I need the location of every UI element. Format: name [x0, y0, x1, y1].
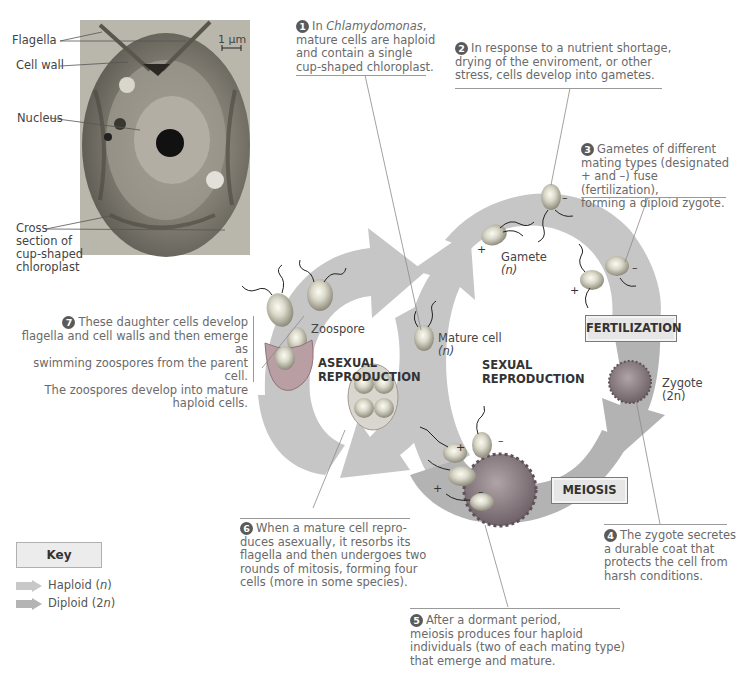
gamete-label: Gamete (n)	[501, 251, 547, 277]
minus-sign: –	[562, 191, 568, 204]
step-6-badge: 6	[240, 522, 253, 535]
key-item-diploid: Diploid (2n)	[16, 596, 115, 610]
asexual-reproduction-title: ASEXUAL REPRODUCTION	[318, 356, 421, 384]
step-5-caption: 5After a dormant period, meiosis produce…	[410, 614, 625, 668]
zoospore-label: Zoospore	[311, 323, 365, 336]
scale-bar-label: 1 µm	[218, 33, 246, 46]
step-7-caption: 7These daughter cells develop flagella a…	[18, 316, 248, 411]
cell-wall-label: Cell wall	[16, 59, 64, 72]
chloroplast-label-4: chloroplast	[16, 261, 79, 274]
step-7-badge: 7	[62, 316, 75, 329]
plus-sign: +	[477, 243, 486, 256]
electron-micrograph	[80, 20, 250, 257]
step-2-caption: 2In response to a nutrient shortage, dry…	[455, 42, 671, 83]
step-2-rule	[455, 88, 662, 89]
nucleus-label: Nucleus	[17, 112, 63, 125]
step-7-rule	[253, 316, 254, 382]
minus-sign: –	[498, 434, 504, 447]
haploid-arrow-icon	[16, 580, 42, 592]
diploid-arrow-icon	[16, 598, 42, 610]
step-3-badge: 3	[581, 143, 594, 156]
plus-sign: +	[456, 441, 465, 454]
step-6-rule	[240, 518, 410, 519]
key-title: Key	[16, 542, 102, 568]
step-5-badge: 5	[410, 614, 423, 627]
key-item-haploid: Haploid (n)	[16, 578, 112, 592]
step-1-rule	[296, 75, 426, 76]
step-5-rule	[410, 608, 620, 609]
step-4-badge: 4	[604, 529, 617, 542]
step-4-caption: 4The zygote secretes a durable coat that…	[604, 529, 736, 583]
step-1-badge: 1	[296, 20, 309, 33]
step-6-caption: 6When a mature cell repro- duces asexual…	[240, 522, 426, 590]
step-2-badge: 2	[455, 42, 468, 55]
plus-sign: +	[570, 284, 579, 297]
fertilization-box: FERTILIZATION	[585, 315, 677, 342]
minus-sign: –	[632, 261, 638, 274]
meiosis-box: MEIOSIS	[551, 477, 628, 504]
flagella-label: Flagella	[12, 34, 57, 47]
mature-cell-label: Mature cell (n)	[438, 332, 502, 358]
minus-sign: –	[478, 485, 484, 498]
zygote-label: Zygote (2n)	[662, 377, 703, 403]
step-4-rule	[604, 524, 727, 525]
step-3-caption: 3Gametes of different mating types (desi…	[581, 143, 739, 211]
sexual-reproduction-title: SEXUAL REPRODUCTION	[482, 358, 585, 386]
plus-sign: +	[433, 482, 442, 495]
step-3-rule	[581, 197, 726, 198]
step-1-caption: 1In Chlamydomonas, mature cells are hapl…	[296, 20, 435, 74]
